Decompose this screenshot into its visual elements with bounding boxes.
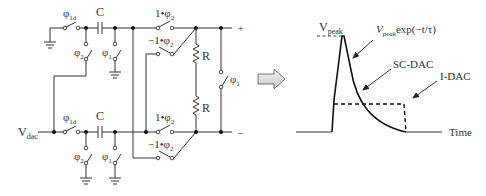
phi1d-label-bottom: φ1d [63,111,77,126]
phi1-short-label: φ1 [230,73,240,88]
neg-phi2-label-bottom: −1•φ2 [148,138,174,153]
bottom-branch: Vdac φ1d C φ2 [18,109,244,184]
phi1-label: φ1 [102,46,112,61]
resistor-ladder: R R [193,28,210,132]
switch-phi1-short [219,28,228,132]
switch-pos-phi2-bottom [156,125,174,134]
capacitor-bottom [98,126,102,138]
capacitor-label-bottom: C [96,109,104,123]
right-arrow-icon [258,69,285,89]
exp-arrow [353,40,373,58]
switch-phi1d-bottom [63,126,80,134]
sc-dac-label: SC-DAC [393,58,433,70]
pos-phi2-label-bottom: 1•φ2 [155,111,175,126]
vpeak-label: Vpeak [319,20,343,36]
switch-pos-phi2-top [156,21,174,30]
resistor-label-bottom: R [202,101,210,115]
phi1d-label: φ1d [63,7,77,22]
exp-label: Vpeakexp(−t/τ) [376,23,436,38]
capacitor-top [98,22,102,34]
neg-phi2-label: −1•φ2 [148,34,174,49]
ground-icon [44,28,56,48]
pos-phi2-label: 1•φ2 [155,7,175,22]
sc-dac-figure: φ1d C φ2 φ1 [0,0,486,196]
sc-dac-curve [332,36,406,132]
phi1-label-bottom: φ1 [102,150,112,165]
switch-phi1d-top [63,22,80,30]
output-minus-label: – [237,127,244,138]
i-dac-curve [334,104,406,132]
resistor-label-top: R [202,49,210,63]
time-axis-label: Time [449,126,472,138]
sc-dac-arrow [363,69,391,90]
i-dac-label: I-DAC [440,70,471,82]
i-dac-arrow [413,81,437,98]
waveform-plot: Vpeak Vpeakexp(−t/τ) SC-DAC I-DAC Time [296,20,472,138]
capacitor-label: C [96,5,104,19]
phi2-label-bottom: φ2 [74,150,84,165]
vdac-label: Vdac [18,125,38,141]
output-plus-label: + [238,23,244,34]
top-branch: φ1d C φ2 φ1 [44,5,244,158]
phi2-label: φ2 [74,46,84,61]
switch-phi2-top [54,28,92,132]
